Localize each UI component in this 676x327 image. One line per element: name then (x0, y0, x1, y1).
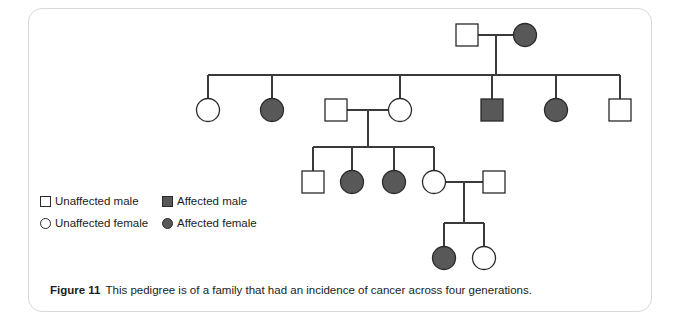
individual-III-4-unaffected-female (423, 171, 446, 194)
figure-caption-label: Figure 11 (50, 284, 101, 296)
square-filled-icon (162, 196, 173, 207)
legend: Unaffected male Affected male Unaffected… (40, 190, 280, 234)
legend-label-affected-female: Affected female (177, 217, 257, 230)
individual-III-1-unaffected-male (302, 171, 324, 193)
square-outline-icon (40, 196, 51, 207)
legend-item-unaffected-male: Unaffected male (40, 195, 162, 208)
individual-II-2-affected-female (261, 99, 284, 122)
legend-row-unaffected: Unaffected male Affected male (40, 190, 280, 212)
individual-III-2-affected-female (341, 171, 364, 194)
individual-II-7-unaffected-male (609, 99, 631, 121)
individual-IV-2-unaffected-female (473, 247, 496, 270)
legend-item-unaffected-female: Unaffected female (40, 217, 162, 230)
individual-I-2-affected-female (514, 24, 537, 47)
legend-label-unaffected-male: Unaffected male (55, 195, 139, 208)
legend-item-affected-female: Affected female (162, 217, 257, 230)
individual-II-1-unaffected-female (197, 99, 220, 122)
individual-I-1-unaffected-male (456, 24, 478, 46)
individual-II-6-affected-female (545, 99, 568, 122)
individual-III-5-unaffected-male (483, 171, 505, 193)
pedigree-diagram (0, 0, 676, 327)
individual-II-4-unaffected-female (389, 99, 412, 122)
individual-II-5-affected-male (481, 99, 503, 121)
legend-row-affected: Unaffected female Affected female (40, 212, 280, 234)
circle-outline-icon (40, 218, 51, 229)
individual-IV-1-affected-female (433, 247, 456, 270)
figure-caption: Figure 11This pedigree is of a family th… (50, 283, 630, 298)
legend-label-unaffected-female: Unaffected female (55, 217, 148, 230)
circle-filled-icon (162, 218, 173, 229)
figure-caption-text: This pedigree is of a family that had an… (106, 284, 532, 296)
individual-II-3-unaffected-male (325, 99, 347, 121)
legend-label-affected-male: Affected male (177, 195, 247, 208)
individual-III-3-affected-female (383, 171, 406, 194)
legend-item-affected-male: Affected male (162, 195, 247, 208)
